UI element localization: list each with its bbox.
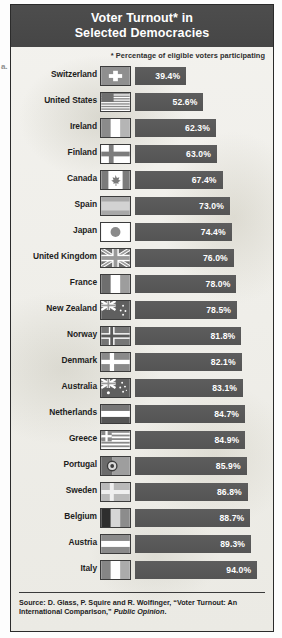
flag-united-states-icon (100, 92, 131, 112)
value-label: 39.4% (155, 71, 186, 81)
value-bar: 82.1% (135, 353, 242, 371)
bar-row: Austria89.3% (11, 531, 273, 557)
value-bar: 74.4% (135, 223, 232, 241)
value-label: 67.4% (192, 175, 223, 185)
bar-row: Sweden86.8% (11, 479, 273, 505)
value-label: 89.3% (220, 539, 251, 549)
country-label: New Zealand (11, 303, 97, 313)
flag-italy-icon (100, 560, 131, 580)
value-label: 63.0% (186, 149, 217, 159)
value-label: 74.4% (201, 227, 232, 237)
value-bar: 78.5% (135, 301, 237, 319)
flag-canada-icon (100, 170, 131, 190)
flag-australia-icon (100, 378, 131, 398)
country-label: Netherlands (11, 407, 97, 417)
country-label: Denmark (11, 355, 97, 365)
country-label: Spain (11, 199, 97, 209)
source-divider (19, 592, 265, 593)
voter-turnout-figure: a. Voter Turnout* in Selected Democracie… (0, 0, 282, 638)
flag-switzerland-icon (100, 66, 131, 86)
chart-title-line-1: Voter Turnout* in (91, 11, 193, 26)
value-bar: 89.3% (135, 535, 251, 553)
flag-france-icon (100, 274, 131, 294)
value-label: 94.0% (226, 565, 257, 575)
bar-rows: Switzerland39.4%United States52.6%Irelan… (11, 63, 273, 583)
value-bar: 73.0% (135, 197, 230, 215)
value-label: 52.6% (173, 97, 204, 107)
bar-row: Norway81.8% (11, 323, 273, 349)
bar-row: Japan74.4% (11, 219, 273, 245)
bar-row: Italy94.0% (11, 557, 273, 583)
flag-spain-icon (100, 196, 131, 216)
country-label: Canada (11, 173, 97, 183)
value-label: 78.0% (206, 279, 237, 289)
bar-row: Netherlands84.7% (11, 401, 273, 427)
country-label: Finland (11, 147, 97, 157)
chart-title-band: Voter Turnout* in Selected Democracies (11, 5, 273, 47)
value-label: 84.7% (214, 409, 245, 419)
value-label: 78.5% (206, 305, 237, 315)
bar-row: Belgium88.7% (11, 505, 273, 531)
country-label: Austria (11, 537, 97, 547)
flag-ireland-icon (100, 118, 131, 138)
value-bar: 67.4% (135, 171, 223, 189)
flag-finland-icon (100, 144, 131, 164)
country-label: France (11, 277, 97, 287)
bar-row: Denmark82.1% (11, 349, 273, 375)
flag-belgium-icon (100, 508, 131, 528)
value-bar: 39.4% (135, 67, 186, 85)
flag-sweden-icon (100, 482, 131, 502)
flag-united-kingdom-icon (100, 248, 131, 268)
value-label: 85.9% (216, 461, 247, 471)
bar-row: United States52.6% (11, 89, 273, 115)
value-label: 62.3% (185, 123, 216, 133)
value-label: 73.0% (199, 201, 230, 211)
value-bar: 62.3% (135, 119, 216, 137)
value-bar: 63.0% (135, 145, 217, 163)
flag-austria-icon (100, 534, 131, 554)
country-label: Greece (11, 433, 97, 443)
bar-row: Greece84.9% (11, 427, 273, 453)
bar-row: United Kingdom76.0% (11, 245, 273, 271)
bar-row: Portugal85.9% (11, 453, 273, 479)
bar-row: Spain73.0% (11, 193, 273, 219)
bar-row: Canada67.4% (11, 167, 273, 193)
flag-new-zealand-icon (100, 300, 131, 320)
country-label: Belgium (11, 511, 97, 521)
country-label: Portugal (11, 459, 97, 469)
country-label: United States (11, 95, 97, 105)
value-label: 82.1% (211, 357, 242, 367)
value-bar: 81.8% (135, 327, 241, 345)
value-label: 86.8% (217, 487, 248, 497)
value-label: 76.0% (203, 253, 234, 263)
country-label: Ireland (11, 121, 97, 131)
bar-row: Finland63.0% (11, 141, 273, 167)
bar-row: Ireland62.3% (11, 115, 273, 141)
country-label: Switzerland (11, 69, 97, 79)
source-publication: Public Opinion (114, 607, 165, 616)
flag-norway-icon (100, 326, 131, 346)
value-label: 84.9% (214, 435, 245, 445)
value-label: 81.8% (210, 331, 241, 341)
country-label: Australia (11, 381, 97, 391)
chart-subtitle: * Percentage of eligible voters particip… (111, 51, 265, 60)
flag-portugal-icon (100, 456, 131, 476)
value-bar: 84.7% (135, 405, 245, 423)
flag-japan-icon (100, 222, 131, 242)
chart-frame: Voter Turnout* in Selected Democracies *… (10, 4, 274, 632)
flag-denmark-icon (100, 352, 131, 372)
flag-netherlands-icon (100, 404, 131, 424)
chart-title-line-2: Selected Democracies (75, 26, 210, 41)
bar-row: France78.0% (11, 271, 273, 297)
value-label: 88.7% (219, 513, 250, 523)
value-bar: 85.9% (135, 457, 247, 475)
value-bar: 83.1% (135, 379, 243, 397)
value-bar: 52.6% (135, 93, 203, 111)
value-bar: 84.9% (135, 431, 245, 449)
country-label: Norway (11, 329, 97, 339)
country-label: United Kingdom (11, 251, 97, 261)
country-label: Italy (11, 563, 97, 573)
value-bar: 86.8% (135, 483, 248, 501)
source-note: Source: D. Glass, P. Squire and R. Wolfi… (19, 598, 265, 617)
country-label: Sweden (11, 485, 97, 495)
